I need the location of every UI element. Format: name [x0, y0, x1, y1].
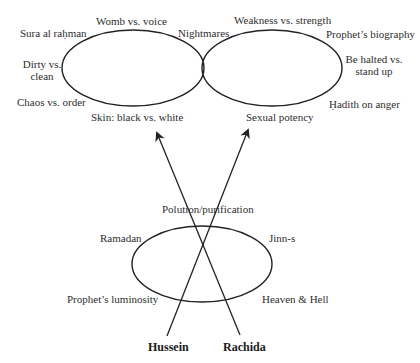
- label-ramadan: Ramadan: [100, 232, 142, 244]
- label-jinn-s: Jinn-s: [269, 232, 295, 244]
- label-be-halted-line2: stand up: [342, 65, 406, 77]
- label-womb-vs-voice: Womb vs. voice: [96, 15, 167, 27]
- label-prophets-biography: Prophet’s biography: [326, 28, 415, 40]
- label-sura-al-rahman: Sura al raḥman: [20, 27, 87, 39]
- label-dirty-line2: clean: [20, 70, 64, 82]
- label-heaven-and-hell: Heaven & Hell: [262, 293, 329, 305]
- bottom-ellipse: [132, 226, 272, 302]
- arrow-hussein-to-top-right: [167, 130, 248, 336]
- label-rachida: Rachida: [223, 341, 266, 353]
- label-sexual-potency: Sexual potency: [246, 111, 314, 123]
- label-polution-purification: Polution/purification: [162, 203, 254, 215]
- label-be-halted-line1: Be halted vs.: [342, 53, 406, 65]
- label-nightmares: Nightmares: [178, 27, 229, 39]
- arrow-rachida-to-top-left: [157, 133, 240, 335]
- label-chaos-vs-order: Chaos vs. order: [17, 96, 86, 108]
- label-dirty-vs-clean: Dirty vs. clean: [20, 58, 64, 82]
- label-hadith-on-anger: Ḥadith on anger: [329, 98, 400, 110]
- label-hussein: Hussein: [148, 341, 189, 353]
- label-prophets-luminosity: Prophet’s luminosity: [67, 293, 158, 305]
- label-weakness-vs-strength: Weakness vs. strength: [234, 14, 331, 26]
- label-dirty-line1: Dirty vs.: [20, 58, 64, 70]
- top-right-ellipse: [202, 30, 342, 106]
- label-skin-black-vs-white: Skin: black vs. white: [91, 111, 183, 123]
- label-be-halted-vs-stand-up: Be halted vs. stand up: [342, 53, 406, 77]
- top-left-ellipse: [62, 30, 204, 106]
